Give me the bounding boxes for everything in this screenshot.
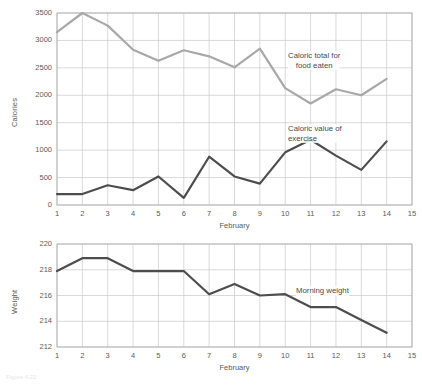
y-tick-label: 2000 [0,90,52,99]
x-tick-label: 6 [172,209,196,218]
x-tick-label: 15 [400,351,422,360]
y-tick-label: 0 [0,200,52,209]
annotation-caloric-total-food: Caloric total forfood eaten [288,51,340,70]
x-tick-label: 11 [299,209,323,218]
x-tick-label: 13 [349,209,373,218]
y-tick-label: 3500 [0,8,52,17]
calories-plot-area [0,0,422,232]
x-tick-label: 9 [248,351,272,360]
annotation-line: Caloric value of [288,124,342,134]
figure-caption: Figure 4.22 [6,374,36,380]
annotation-morning-weight: Morning weight [296,286,349,296]
annotation-caloric-value-exercise: Caloric value ofexercise [288,124,342,143]
y-tick-label: 1000 [0,145,52,154]
y-tick-label: 220 [0,239,52,248]
x-tick-label: 12 [324,209,348,218]
weight-chart: Weight 212214216218220 12345678910111213… [0,232,422,372]
x-tick-label: 4 [121,351,145,360]
x-tick-label: 2 [70,209,94,218]
x-tick-label: 7 [197,209,221,218]
x-tick-label: 11 [299,351,323,360]
annotation-line: Caloric total for [288,51,340,61]
series-line-1 [57,140,387,198]
x-tick-label: 1 [45,351,69,360]
calories-chart: Calories 0500100015002000250030003500 12… [0,0,422,232]
x-tick-label: 8 [223,209,247,218]
y-tick-label: 500 [0,173,52,182]
x-tick-label: 6 [172,351,196,360]
y-tick-label: 218 [0,265,52,274]
x-tick-label: 5 [146,209,170,218]
x-tick-label: 13 [349,351,373,360]
x-tick-label: 8 [223,351,247,360]
x-tick-label: 14 [375,209,399,218]
x-tick-label: 10 [273,209,297,218]
x-tick-label: 15 [400,209,422,218]
y-tick-label: 1500 [0,118,52,127]
x-tick-label: 12 [324,351,348,360]
x-tick-label: 5 [146,351,170,360]
calories-x-axis-title: February [57,221,412,230]
annotation-line: food eaten [288,61,340,71]
annotation-line: Morning weight [296,286,349,296]
x-tick-label: 10 [273,351,297,360]
y-tick-label: 216 [0,291,52,300]
x-tick-label: 9 [248,209,272,218]
figure-container: Calories 0500100015002000250030003500 12… [0,0,422,386]
x-tick-label: 7 [197,351,221,360]
x-tick-label: 2 [70,351,94,360]
x-tick-label: 14 [375,351,399,360]
y-tick-label: 2500 [0,63,52,72]
weight-x-axis-title: February [57,363,412,372]
y-tick-label: 212 [0,342,52,351]
x-tick-label: 3 [96,351,120,360]
annotation-line: exercise [288,134,342,144]
x-tick-label: 4 [121,209,145,218]
x-tick-label: 3 [96,209,120,218]
y-tick-label: 214 [0,316,52,325]
y-tick-label: 3000 [0,35,52,44]
x-tick-label: 1 [45,209,69,218]
